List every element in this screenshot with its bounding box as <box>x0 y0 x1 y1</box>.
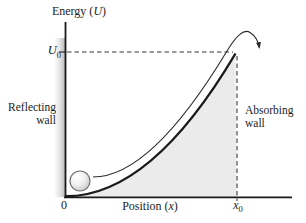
absorbing-wall-line1: Absorbing <box>245 104 294 116</box>
absorbing-wall-line2: wall <box>245 117 265 129</box>
energy-axis-label: Energy (U) <box>40 5 118 18</box>
position-axis-label: Position (x) <box>103 200 197 213</box>
reflecting-wall-line2: wall <box>36 114 56 126</box>
origin-label: 0 <box>58 199 70 212</box>
energy-axis-symbol: U <box>93 4 102 18</box>
position-axis-suffix: ) <box>174 199 178 213</box>
reflecting-wall-label: Reflectingwall <box>6 101 56 126</box>
u0-label: U0 <box>28 44 61 58</box>
particle-ball-icon <box>70 171 90 191</box>
u0-subscript: 0 <box>57 50 61 60</box>
position-axis-prefix: Position ( <box>122 199 168 213</box>
absorbing-wall-label: Absorbingwall <box>245 104 303 129</box>
x0-label: x0 <box>229 199 247 212</box>
x0-subscript: 0 <box>239 204 243 214</box>
energy-axis-prefix: Energy ( <box>52 4 93 18</box>
reflecting-wall-line1: Reflecting <box>8 101 56 113</box>
energy-position-diagram: Energy (U) U0 Reflectingwall Absorbingwa… <box>0 0 306 223</box>
u0-symbol: U <box>48 43 57 57</box>
energy-axis-suffix: ) <box>102 4 106 18</box>
area-under-curve <box>66 54 237 198</box>
